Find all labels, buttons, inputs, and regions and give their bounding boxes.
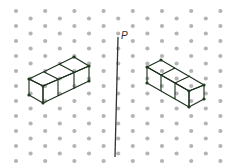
grid-dot (175, 121, 179, 125)
grid-dot (72, 114, 76, 118)
grid-dot (175, 61, 179, 65)
grid-dot (87, 151, 91, 155)
grid-dot (87, 16, 91, 20)
grid-dot (131, 9, 135, 13)
grid-dot (218, 144, 222, 148)
grid-dot (145, 31, 149, 35)
grid-dot (87, 46, 91, 50)
grid-dot (131, 129, 135, 133)
grid-dot (102, 24, 106, 28)
grid-dot (175, 76, 179, 80)
grid-dot (102, 39, 106, 43)
grid-dot (43, 39, 47, 43)
grid-dot (87, 121, 91, 125)
grid-dot (218, 129, 222, 133)
prism-face-side (43, 66, 89, 103)
grid-dot (204, 151, 208, 155)
grid-dot (189, 24, 193, 28)
grid-dot (175, 16, 179, 20)
grid-dot (204, 61, 208, 65)
grid-dot (29, 16, 33, 20)
grid-dot (189, 84, 193, 88)
grid-dot (43, 24, 47, 28)
grid-dot (14, 129, 18, 133)
grid-dot (14, 84, 18, 88)
grid-dot (189, 39, 193, 43)
grid-dot (218, 9, 222, 13)
grid-dot (58, 46, 62, 50)
grid-dot (218, 24, 222, 28)
grid-dot (29, 31, 33, 35)
grid-dot (58, 16, 62, 20)
grid-dot (218, 159, 222, 163)
grid-dot (14, 24, 18, 28)
grid-dot (145, 61, 149, 65)
grid-dot (43, 54, 47, 58)
grid-dot (218, 69, 222, 73)
grid-dot (72, 159, 76, 163)
grid-dot (189, 9, 193, 13)
grid-dot (175, 46, 179, 50)
grid-dot (204, 46, 208, 50)
grid-dot (102, 144, 106, 148)
grid-dot (160, 114, 164, 118)
grid-dot (131, 54, 135, 58)
grid-dot (145, 151, 149, 155)
grid-dot (175, 106, 179, 110)
grid-dot (14, 114, 18, 118)
grid-dot (189, 54, 193, 58)
grid-dot (29, 151, 33, 155)
grid-dot (14, 69, 18, 73)
grid-dot (87, 136, 91, 140)
cube-edge (44, 72, 58, 79)
grid-dot (160, 69, 164, 73)
grid-dot (175, 151, 179, 155)
grid-dot (204, 31, 208, 35)
grid-dot (204, 136, 208, 140)
grid-dot (102, 84, 106, 88)
grid-dot (218, 114, 222, 118)
grid-dot (14, 39, 18, 43)
grid-dot (189, 159, 193, 163)
grid-dot (58, 106, 62, 110)
grid-dot (102, 69, 106, 73)
grid-dot (218, 39, 222, 43)
grid-dot (43, 144, 47, 148)
grid-dot (58, 136, 62, 140)
grid-dot (43, 114, 47, 118)
grid-dot (29, 106, 33, 110)
grid-dot (87, 106, 91, 110)
grid-dot (204, 121, 208, 125)
grid-dot (72, 24, 76, 28)
grid-dot (72, 39, 76, 43)
grid-dot (14, 54, 18, 58)
grid-dot (189, 69, 193, 73)
grid-dot (72, 9, 76, 13)
grid-dot (189, 144, 193, 148)
grid-dot (29, 136, 33, 140)
grid-dot (131, 69, 135, 73)
grid-dot (160, 159, 164, 163)
grid-dot (14, 144, 18, 148)
cube-edge (59, 64, 74, 72)
grid-dot (160, 54, 164, 58)
grid-dot (102, 129, 106, 133)
grid-dot (14, 99, 18, 103)
grid-dot (145, 121, 149, 125)
grid-dot (204, 106, 208, 110)
grid-dot (160, 144, 164, 148)
grid-dot (116, 31, 120, 35)
grid-dot (102, 54, 106, 58)
grid-dot (175, 136, 179, 140)
grid-dot (102, 159, 106, 163)
grid-dot (145, 46, 149, 50)
grid-dot (175, 31, 179, 35)
grid-dot (145, 16, 149, 20)
grid-dot (116, 151, 120, 155)
right-cuboid-prism (145, 58, 205, 108)
grid-dot (102, 114, 106, 118)
grid-dot (102, 9, 106, 13)
grid-dot (43, 129, 47, 133)
grid-dot (131, 84, 135, 88)
isometric-reflection-diagram: P (0, 0, 233, 166)
